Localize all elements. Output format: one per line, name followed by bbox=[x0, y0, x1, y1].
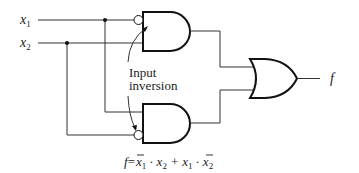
equation-text: f=x1·x2+x1·x2 bbox=[124, 154, 213, 171]
wire-x2-to-bottom-and bbox=[67, 43, 134, 135]
inversion-bubble-bottom bbox=[134, 131, 143, 140]
and-gate-bottom bbox=[143, 104, 190, 143]
wire-top-and-to-or bbox=[190, 31, 253, 67]
annotation-line2: inversion bbox=[129, 78, 178, 93]
junction-x2 bbox=[65, 41, 69, 45]
output-f-label: f bbox=[330, 71, 336, 86]
logic-circuit: x1 x2 f Input inversion f=x1·x2+x1·x2 bbox=[0, 0, 359, 173]
and-gate-top bbox=[143, 12, 190, 51]
junction-x1 bbox=[103, 18, 107, 22]
inversion-bubble-top bbox=[134, 16, 143, 25]
equation: f=x1·x2+x1·x2 bbox=[124, 154, 213, 171]
input-x2-label: x2 bbox=[19, 35, 31, 52]
input-x1-label: x1 bbox=[19, 12, 31, 29]
or-gate bbox=[250, 59, 297, 98]
wire-bottom-and-to-or bbox=[190, 90, 253, 123]
arrowhead-bottom bbox=[132, 125, 137, 131]
